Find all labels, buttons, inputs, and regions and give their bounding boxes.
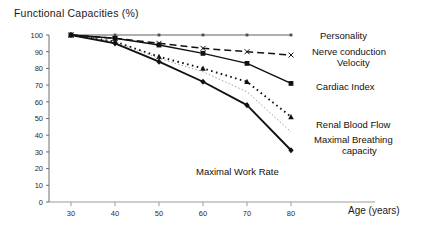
chart-figure: Functional Capacities (%) 01020304050607… [0, 0, 423, 241]
series-label-work-rate: Maximal Work Rate [196, 166, 279, 178]
y-tick-label: 40 [35, 131, 43, 140]
y-tick-label: 20 [35, 164, 43, 173]
y-tick-label: 80 [35, 64, 43, 73]
tick-labels: 0102030405060708090100304050607080 [30, 31, 295, 218]
series-label-cardiac: Cardiac Index [316, 81, 375, 93]
series-label-renal: Renal Blood Flow [316, 119, 390, 131]
data-series [68, 32, 294, 153]
series-nerve-conduction-velocity [69, 33, 294, 58]
y-tick-label: 10 [35, 181, 43, 190]
data-point-marker [289, 53, 294, 58]
data-point-marker [202, 34, 205, 37]
series-label-personality: Personality [320, 30, 367, 42]
data-point-marker [290, 34, 293, 37]
y-tick-label: 30 [35, 148, 43, 157]
data-point-marker [157, 43, 162, 48]
y-tick-label: 90 [35, 48, 43, 57]
data-point-marker [246, 34, 249, 37]
series-line [71, 35, 291, 117]
data-point-marker [245, 61, 250, 66]
x-axis-title: Age (years) [348, 205, 400, 216]
y-tick-label: 70 [35, 81, 43, 90]
y-tick-label: 50 [35, 114, 43, 123]
y-tick-label: 60 [35, 98, 43, 107]
x-tick-label: 40 [111, 209, 119, 218]
series-label-nerve-line2: Velocity [337, 57, 370, 69]
series-label-breathing-line2: capacity [342, 145, 377, 157]
y-tick-label: 100 [30, 31, 43, 40]
x-tick-label: 70 [243, 209, 251, 218]
series-personality [70, 34, 293, 37]
y-tick-label: 0 [39, 198, 43, 207]
data-point-marker [158, 34, 161, 37]
data-point-marker [200, 79, 205, 85]
data-point-marker [289, 81, 294, 86]
data-point-marker [156, 59, 161, 65]
data-point-marker [200, 66, 206, 71]
data-point-marker [112, 40, 117, 46]
series-maximal-work-rate [68, 32, 293, 153]
x-tick-label: 60 [199, 209, 207, 218]
series-line [71, 35, 291, 83]
x-tick-label: 80 [287, 209, 295, 218]
series-label-breathing-line1: Maximal Breathing [314, 134, 393, 146]
x-tick-label: 50 [155, 209, 163, 218]
x-tick-label: 30 [67, 209, 75, 218]
series-label-nerve-line1: Nerve conduction [312, 46, 386, 58]
data-point-marker [201, 51, 206, 56]
data-point-marker [156, 54, 162, 59]
